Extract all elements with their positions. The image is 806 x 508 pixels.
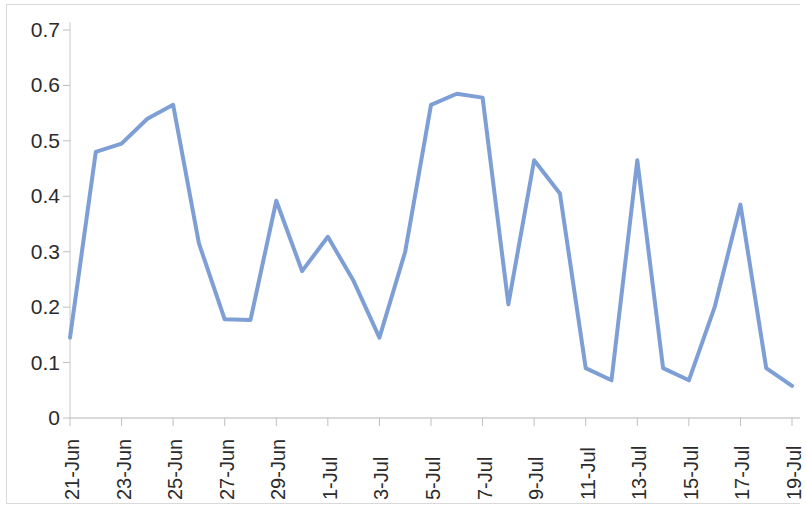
x-axis-tick-label: 5-Jul (423, 457, 443, 500)
x-axis-tick-label: 17-Jul (732, 446, 752, 500)
x-axis-tick-label: 27-Jun (217, 439, 237, 500)
x-axis-tick-label: 21-Jun (62, 439, 82, 500)
x-axis-tick-label: 13-Jul (629, 446, 649, 500)
x-axis-tick-label: 29-Jun (268, 439, 288, 500)
x-axis-tick-label: 1-Jul (320, 457, 340, 500)
x-axis-tick-label: 9-Jul (526, 457, 546, 500)
x-axis-tick-label: 19-Jul (784, 446, 804, 500)
x-axis-labels: 21-Jun23-Jun25-Jun27-Jun29-Jun1-Jul3-Jul… (0, 0, 806, 508)
x-axis-tick-label: 3-Jul (371, 457, 391, 500)
line-chart: 0.70.60.50.40.30.20.10 21-Jun23-Jun25-Ju… (0, 0, 806, 508)
x-axis-tick-label: 15-Jul (681, 446, 701, 500)
x-axis-tick-label: 25-Jun (165, 439, 185, 500)
x-axis-tick-label: 23-Jun (114, 439, 134, 500)
x-axis-tick-label: 7-Jul (475, 457, 495, 500)
x-axis-tick-label: 11-Jul (578, 447, 598, 500)
